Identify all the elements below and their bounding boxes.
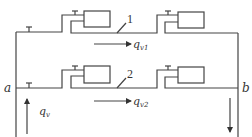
- inflow-label: qv: [39, 105, 50, 119]
- flow-label-2: qv2: [133, 95, 149, 109]
- pipe-network-diagram: 1 2 qv1 qv2 qv a b: [0, 0, 252, 137]
- node-b-label: b: [242, 81, 250, 95]
- branch-2-label: 2: [127, 67, 133, 81]
- unit-box-2b: [178, 67, 204, 83]
- node-a-label: a: [4, 81, 11, 95]
- flow-label-1: qv1: [133, 38, 148, 52]
- unit-box-1a: [84, 11, 110, 27]
- unit-box-2a: [84, 66, 110, 83]
- branch-1-label: 1: [127, 12, 133, 26]
- unit-box-1b: [178, 12, 204, 28]
